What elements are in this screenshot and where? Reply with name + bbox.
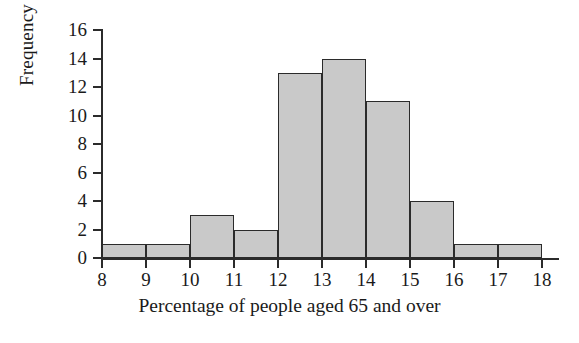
y-tick-mark — [93, 58, 102, 60]
y-tick-label: 0 — [53, 248, 87, 267]
histogram-bar — [234, 230, 278, 259]
x-tick-mark — [497, 259, 499, 268]
y-tick-label: 2 — [53, 220, 87, 239]
x-tick-mark — [233, 259, 235, 268]
y-tick-mark — [93, 229, 102, 231]
y-tick-mark — [93, 86, 102, 88]
x-tick-mark — [189, 259, 191, 268]
x-tick-label: 17 — [478, 270, 518, 289]
y-tick-mark — [93, 143, 102, 145]
x-tick-mark — [453, 259, 455, 268]
x-tick-mark — [145, 259, 147, 268]
x-tick-label: 16 — [434, 270, 474, 289]
histogram-bar — [366, 101, 410, 258]
x-tick-mark — [541, 259, 543, 268]
y-tick-mark — [93, 200, 102, 202]
x-tick-label: 14 — [346, 270, 386, 289]
x-tick-label: 15 — [390, 270, 430, 289]
histogram-bar — [190, 215, 234, 258]
y-tick-label: 8 — [53, 134, 87, 153]
x-tick-label: 9 — [126, 270, 166, 289]
x-tick-label: 18 — [522, 270, 562, 289]
histogram-bar — [410, 201, 454, 258]
histogram-bar — [454, 244, 498, 258]
x-axis-line — [101, 258, 559, 260]
x-tick-mark — [365, 259, 367, 268]
y-tick-label: 12 — [53, 77, 87, 96]
y-tick-label: 14 — [53, 49, 87, 68]
y-tick-label: 4 — [53, 191, 87, 210]
histogram-chart: 0246810121416 89101112131415161718 Frequ… — [0, 0, 579, 343]
histogram-bar — [146, 244, 190, 258]
y-tick-mark — [93, 115, 102, 117]
y-tick-mark — [93, 172, 102, 174]
y-tick-label: 10 — [53, 106, 87, 125]
histogram-bar — [102, 244, 146, 258]
x-tick-label: 8 — [82, 270, 122, 289]
x-tick-mark — [101, 259, 103, 268]
x-tick-label: 11 — [214, 270, 254, 289]
x-tick-label: 12 — [258, 270, 298, 289]
plot-area: 0246810121416 89101112131415161718 — [0, 0, 579, 343]
x-tick-mark — [277, 259, 279, 268]
x-tick-mark — [409, 259, 411, 268]
histogram-bar — [322, 59, 366, 259]
x-axis-title: Percentage of people aged 65 and over — [0, 294, 579, 318]
y-tick-label: 6 — [53, 163, 87, 182]
histogram-bar — [278, 73, 322, 258]
y-tick-mark — [93, 29, 102, 31]
x-tick-label: 10 — [170, 270, 210, 289]
x-tick-label: 13 — [302, 270, 342, 289]
x-tick-mark — [321, 259, 323, 268]
histogram-bar — [498, 244, 542, 258]
y-tick-label: 16 — [53, 20, 87, 39]
y-axis-title: Frequency — [16, 0, 46, 110]
